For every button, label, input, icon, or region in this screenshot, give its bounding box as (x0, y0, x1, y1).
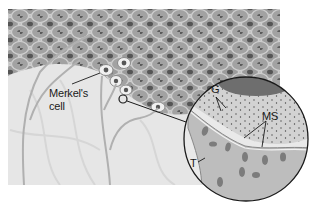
merkel-cell-illustration (0, 0, 309, 205)
label-ms-membrane-specialization: MS (262, 111, 278, 122)
label-t-terminal: T (190, 158, 197, 169)
label-merkel-line2: cell (49, 101, 65, 112)
label-merkel-line1: Merkel's (49, 88, 88, 99)
label-g-granules: G (211, 84, 219, 95)
